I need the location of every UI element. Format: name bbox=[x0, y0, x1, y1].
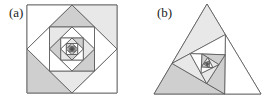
center-square bbox=[71, 48, 74, 51]
nested-squares-spiral bbox=[27, 5, 117, 93]
figure-canvas bbox=[0, 0, 268, 97]
nested-triangles-spiral bbox=[154, 4, 261, 94]
corner-triangle bbox=[225, 35, 261, 94]
